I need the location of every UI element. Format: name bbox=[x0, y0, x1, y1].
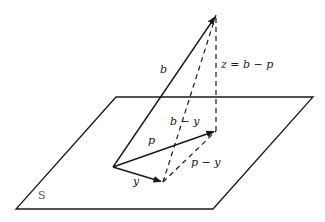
label-b: b bbox=[160, 64, 167, 75]
projection-diagram: b z = b − p b − y p p − y y S bbox=[0, 0, 325, 222]
label-p-minus-y: p − y bbox=[191, 157, 220, 168]
plane-s bbox=[16, 97, 313, 209]
label-y: y bbox=[133, 176, 139, 187]
label-z-equals-b-minus-p: z = b − p bbox=[221, 59, 273, 70]
label-b-minus-y: b − y bbox=[170, 116, 199, 127]
label-plane-s: S bbox=[38, 190, 46, 201]
label-p: p bbox=[148, 135, 155, 146]
diagram-svg bbox=[0, 0, 325, 222]
vector-b bbox=[113, 17, 215, 167]
